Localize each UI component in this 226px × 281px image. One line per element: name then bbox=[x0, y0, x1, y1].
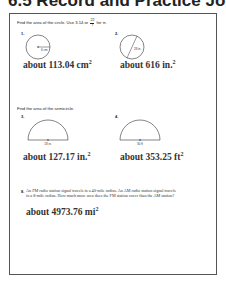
answer-exponent: 2 bbox=[173, 59, 176, 65]
section2-instruction: Find the area of the semicircle. bbox=[17, 106, 74, 111]
problem-1-answer: about 113.04 cm2 bbox=[23, 59, 92, 70]
problem-3-answer: about 127.17 in.2 bbox=[23, 151, 90, 162]
circle-2-label: 28 in. bbox=[134, 47, 142, 51]
instruction-prefix: Find the area of the circle. Use 3.14 or bbox=[17, 20, 88, 25]
semicircle-3-shape bbox=[28, 120, 68, 140]
semicircle-figure-4: 30 ft bbox=[118, 118, 164, 148]
semicircle-3-label: 18 in. bbox=[44, 142, 52, 146]
answer-text: about 127.17 in. bbox=[23, 152, 87, 162]
answer-text: about 113.04 cm bbox=[23, 60, 89, 70]
answer-exponent: 2 bbox=[95, 206, 98, 212]
answer-exponent: 2 bbox=[87, 151, 90, 157]
fraction-denominator: 7 bbox=[90, 24, 94, 28]
answer-text: about 4973.76 mi bbox=[26, 207, 95, 217]
semicircle-4-label: 30 ft bbox=[137, 142, 143, 146]
problem-8-answer: about 4973.76 mi2 bbox=[26, 206, 98, 217]
answer-text: about 616 in. bbox=[120, 60, 173, 70]
answer-text: about 353.25 ft bbox=[120, 152, 180, 162]
problem-8-text: An FM radio station signal travels in a … bbox=[26, 188, 176, 199]
answer-exponent: 2 bbox=[180, 151, 183, 157]
fraction-22-7: 227 bbox=[90, 19, 94, 28]
problem-3-number: 3. bbox=[21, 114, 24, 119]
answer-exponent: 2 bbox=[89, 59, 92, 65]
page-header: 6.5 Record and Practice Journal bbox=[8, 0, 226, 11]
problem-8-number: 8. bbox=[21, 189, 24, 194]
problem-2-answer: about 616 in.2 bbox=[120, 59, 176, 70]
semicircle-4-shape bbox=[120, 120, 160, 140]
circle-1-label: 6 cm bbox=[41, 48, 48, 52]
instruction-suffix: for π. bbox=[97, 20, 107, 25]
section1-instruction: Find the area of the circle. Use 3.14 or… bbox=[17, 19, 107, 28]
semicircle-figure-3: 18 in. bbox=[26, 118, 72, 148]
worksheet: Find the area of the circle. Use 3.14 or… bbox=[9, 13, 217, 275]
problem-4-answer: about 353.25 ft2 bbox=[120, 151, 183, 162]
